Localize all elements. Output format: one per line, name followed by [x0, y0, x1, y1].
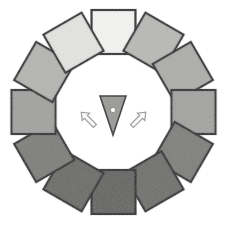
figure-canvas — [0, 0, 227, 229]
rotational-square-ring-figure — [0, 0, 227, 229]
pivot-dot — [110, 107, 115, 112]
